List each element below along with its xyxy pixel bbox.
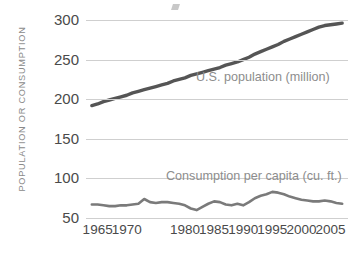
x-tick-label-1980: 1980	[170, 222, 200, 237]
line-chart: POPULATION OR CONSUMPTION 30025020015010…	[0, 0, 355, 258]
x-tick-label-2000: 2000	[286, 222, 316, 237]
x-axis-tick-labels: 19651970198019851990199520002005	[86, 222, 348, 242]
series-layer	[86, 20, 348, 218]
y-tick-label-50: 50	[33, 209, 79, 226]
gridline-300	[86, 20, 348, 21]
x-tick-label-1965: 1965	[83, 222, 113, 237]
plot-area	[86, 20, 348, 218]
y-axis-title: POPULATION OR CONSUMPTION	[17, 19, 27, 199]
y-tick-label-250: 250	[33, 51, 79, 68]
x-tick-label-1995: 1995	[257, 222, 287, 237]
series-label-consumption: Consumption per capita (cu. ft.)	[166, 169, 342, 183]
gridline-50	[86, 218, 348, 219]
y-tick-label-150: 150	[33, 130, 79, 147]
series-line-consumption	[92, 192, 342, 210]
y-tick-label-100: 100	[33, 169, 79, 186]
y-tick-label-200: 200	[33, 90, 79, 107]
x-tick-label-2005: 2005	[316, 222, 346, 237]
series-label-population: U.S. population (million)	[196, 70, 330, 84]
y-tick-label-300: 300	[33, 11, 79, 28]
x-tick-label-1990: 1990	[228, 222, 258, 237]
x-tick-label-1985: 1985	[199, 222, 229, 237]
scan-artifact	[171, 4, 180, 10]
gridline-150	[86, 139, 348, 140]
gridline-200	[86, 99, 348, 100]
gridline-250	[86, 60, 348, 61]
series-line-population	[92, 23, 342, 105]
x-tick-label-1970: 1970	[112, 222, 142, 237]
